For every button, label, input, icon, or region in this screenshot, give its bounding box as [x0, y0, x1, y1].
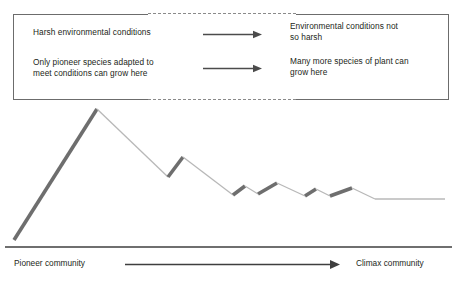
diversity-segment — [97, 109, 168, 177]
diversity-segment — [168, 157, 183, 177]
diversity-segment — [258, 183, 277, 194]
diversity-segment — [330, 188, 352, 196]
diversity-segment — [245, 186, 258, 194]
diversity-line — [14, 109, 445, 240]
succession-diversity-chart — [0, 100, 459, 252]
box-top-dashed-segment — [148, 13, 296, 14]
harsh-conditions-text: Harsh environmental conditions — [33, 27, 198, 38]
diversity-segment — [183, 157, 233, 195]
diversity-segment — [352, 188, 375, 199]
diversity-segment — [14, 109, 97, 240]
diversity-segment — [316, 189, 330, 196]
right-arrow-icon — [203, 30, 263, 39]
less-harsh-conditions-text: Environmental conditions not so harsh — [290, 21, 442, 42]
diagram-canvas: Harsh environmental conditions Only pion… — [0, 0, 459, 285]
pioneer-species-text: Only pioneer species adapted to meet con… — [33, 57, 203, 78]
diversity-segment — [233, 186, 245, 195]
axis-label-climax: Climax community — [356, 258, 424, 269]
more-species-text: Many more species of plant can grow here — [290, 56, 445, 77]
diversity-segment — [305, 189, 316, 196]
diversity-segment — [277, 183, 305, 196]
right-arrow-icon — [125, 258, 341, 271]
axis-label-pioneer: Pioneer community — [14, 258, 85, 269]
right-arrow-icon — [203, 64, 263, 73]
